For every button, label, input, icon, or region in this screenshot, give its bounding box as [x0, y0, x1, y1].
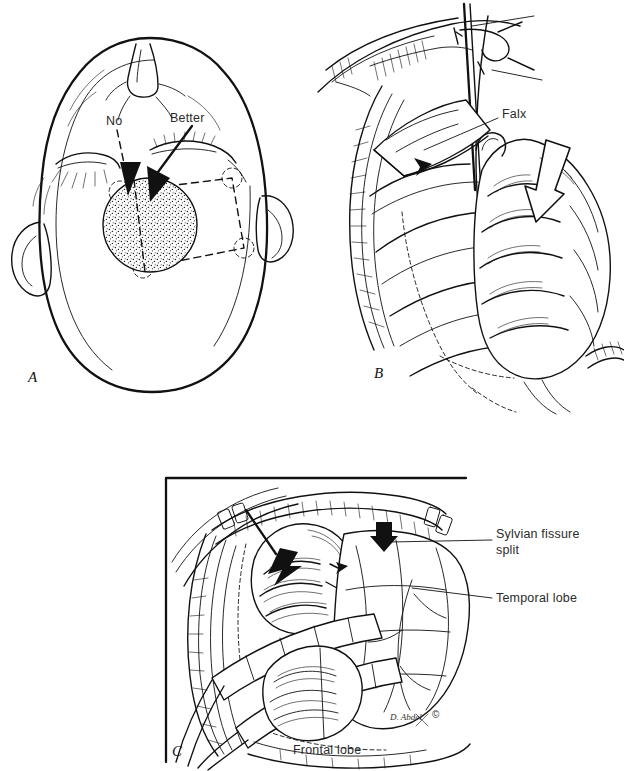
nose: [106, 44, 185, 120]
temporalis-fascia-layers: [350, 86, 404, 350]
label-sylvian-line2: split: [496, 543, 520, 557]
panel-c-pterional-view: Sylvian fissure split Temporal lobe Fron…: [150, 470, 624, 771]
panel-letter-b: B: [374, 365, 383, 381]
panel-letter-a: A: [27, 369, 38, 385]
temporalis-muscle: [188, 534, 242, 756]
figure-root: No Better A: [0, 0, 624, 771]
svg-text:D. Abdel: D. Abdel: [389, 712, 422, 722]
label-temporal-lobe: Temporal lobe: [496, 591, 577, 605]
label-falx: Falx: [502, 107, 527, 121]
retractor-shafts: [176, 680, 248, 770]
eye-right: [150, 132, 246, 182]
brain-frontal-lower: [263, 646, 362, 741]
panel-letter-c: C: [172, 743, 183, 759]
label-no: No: [106, 114, 122, 128]
panel-b-interhemispheric-view: Falx B: [312, 0, 624, 420]
svg-text:©: ©: [432, 709, 440, 720]
ear-right: [256, 196, 293, 262]
label-better: Better: [170, 111, 205, 125]
scalp-edge: [318, 18, 520, 96]
label-frontal-lobe: Frontal lobe: [293, 743, 361, 757]
label-sylvian-line1: Sylvian fissure: [496, 527, 580, 541]
panel-a-head-vertex-view: No Better A: [0, 0, 312, 420]
